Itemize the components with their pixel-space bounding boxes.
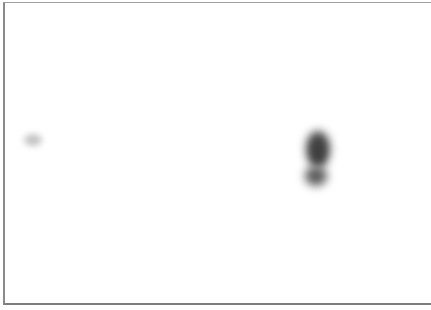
left-faint-spot: [24, 134, 42, 146]
right-band-core: [312, 138, 324, 164]
blot-frame: [3, 2, 431, 305]
right-band-lower: [305, 166, 327, 186]
blot-image: [0, 0, 431, 310]
